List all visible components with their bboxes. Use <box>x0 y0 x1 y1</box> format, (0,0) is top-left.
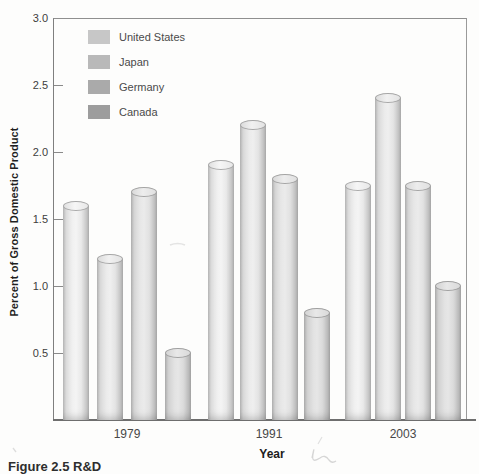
x-tick-label-1979: 1979 <box>97 427 157 441</box>
bar-top-ellipse <box>97 254 123 264</box>
bar-united-states-2003 <box>345 186 371 421</box>
legend-label: Germany <box>119 81 164 93</box>
bar-canada-1979 <box>165 353 191 420</box>
y-tick-label: 0.5 <box>8 348 48 359</box>
y-tick-mark <box>54 286 63 287</box>
bar-japan-2003 <box>375 98 401 420</box>
bar-germany-2003 <box>405 186 431 421</box>
bar-top-ellipse <box>272 174 298 184</box>
bar-japan-1991 <box>240 125 266 420</box>
bar-top-ellipse <box>345 181 371 191</box>
bar-top-ellipse <box>165 348 191 358</box>
y-tick-label: 3.0 <box>8 13 48 24</box>
x-axis-title: Year <box>242 447 302 461</box>
y-tick-label: 2.5 <box>8 80 48 91</box>
bar-top-ellipse <box>405 181 431 191</box>
bar-japan-1979 <box>97 259 123 420</box>
legend-swatch <box>88 80 110 94</box>
bar-united-states-1979 <box>63 206 89 420</box>
bar-top-ellipse <box>131 187 157 197</box>
legend-swatch <box>88 105 110 119</box>
y-tick-label: 1.0 <box>8 281 48 292</box>
bar-germany-1991 <box>272 179 298 420</box>
legend: United StatesJapanGermanyCanada <box>88 30 185 130</box>
bar-canada-2003 <box>435 286 461 420</box>
y-tick-mark <box>54 152 63 153</box>
legend-swatch <box>88 55 110 69</box>
bar-germany-1979 <box>131 192 157 420</box>
bar-top-ellipse <box>435 281 461 291</box>
legend-label: Canada <box>119 106 158 118</box>
legend-swatch <box>88 30 110 44</box>
legend-label: United States <box>119 31 185 43</box>
legend-item: Canada <box>88 105 185 119</box>
bar-top-ellipse <box>208 160 234 170</box>
bar-top-ellipse <box>375 93 401 103</box>
bar-united-states-1991 <box>208 165 234 420</box>
legend-item: United States <box>88 30 185 44</box>
y-tick-mark <box>54 219 63 220</box>
y-tick-mark <box>54 85 63 86</box>
legend-label: Japan <box>119 56 149 68</box>
bar-top-ellipse <box>304 308 330 318</box>
bar-top-ellipse <box>240 120 266 130</box>
bar-canada-1991 <box>304 313 330 420</box>
bar-top-ellipse <box>63 201 89 211</box>
x-tick-label-2003: 2003 <box>373 427 433 441</box>
y-tick-label: 1.5 <box>8 214 48 225</box>
y-tick-label: 2.0 <box>8 147 48 158</box>
legend-item: Germany <box>88 80 185 94</box>
legend-item: Japan <box>88 55 185 69</box>
y-tick-mark <box>54 353 63 354</box>
figure-caption: Figure 2.5 R&D <box>8 459 101 474</box>
x-tick-label-1991: 1991 <box>239 427 299 441</box>
